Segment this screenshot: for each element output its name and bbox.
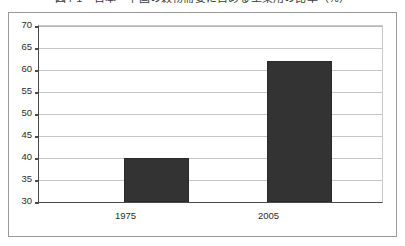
y-axis-label-70: 70: [8, 20, 32, 30]
chart-plot-area: [38, 25, 383, 203]
y-axis-label-65: 65: [8, 42, 32, 52]
x-axis-label-2005: 2005: [236, 210, 301, 221]
chart-screenshot: 図4-1 日本・中国の穀物需要に占める工業用の比率（%）: [0, 0, 405, 246]
bar-1975[interactable]: [124, 158, 189, 202]
x-axis-label-1975: 1975: [93, 210, 158, 221]
y-axis-label-40: 40: [8, 152, 32, 162]
bar-2005[interactable]: [267, 61, 332, 202]
y-axis-label-50: 50: [8, 108, 32, 118]
chart-plot-wrapper: 70 65 60 55 50 45 40 35 30 1975 2005: [8, 12, 397, 237]
y-axis-label-35: 35: [8, 174, 32, 184]
chart-title: 図4-1 日本・中国の穀物需要に占める工業用の比率（%）: [0, 0, 405, 5]
y-axis-label-55: 55: [8, 86, 32, 96]
y-axis-label-30: 30: [8, 196, 32, 206]
y-axis-label-60: 60: [8, 64, 32, 74]
tickmark-30: [35, 202, 39, 204]
gridline-30: [39, 202, 382, 203]
y-axis-label-45: 45: [8, 130, 32, 140]
bars-group: [39, 26, 382, 202]
